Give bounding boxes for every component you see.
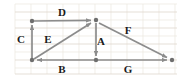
vector-D-arrow	[34, 20, 91, 21]
node-bottom-left	[30, 58, 34, 62]
node-bottom-middle	[94, 58, 98, 62]
vector-label-F: F	[125, 25, 132, 36]
node-top-left	[30, 19, 34, 23]
vector-label-E: E	[44, 34, 51, 45]
diagram-canvas	[0, 0, 190, 78]
vector-label-G: G	[124, 64, 133, 75]
node-bottom-right	[170, 58, 174, 62]
vector-label-D: D	[58, 7, 66, 18]
vector-label-C: C	[17, 34, 25, 45]
vector-label-A: A	[97, 36, 105, 47]
vector-label-B: B	[58, 64, 65, 75]
vector-diagram-figure: A B C D E F G	[0, 0, 190, 78]
node-apex	[94, 18, 98, 22]
